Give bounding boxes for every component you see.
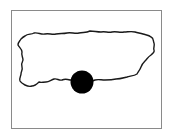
locator-map bbox=[0, 0, 172, 136]
location-marker bbox=[71, 71, 94, 94]
